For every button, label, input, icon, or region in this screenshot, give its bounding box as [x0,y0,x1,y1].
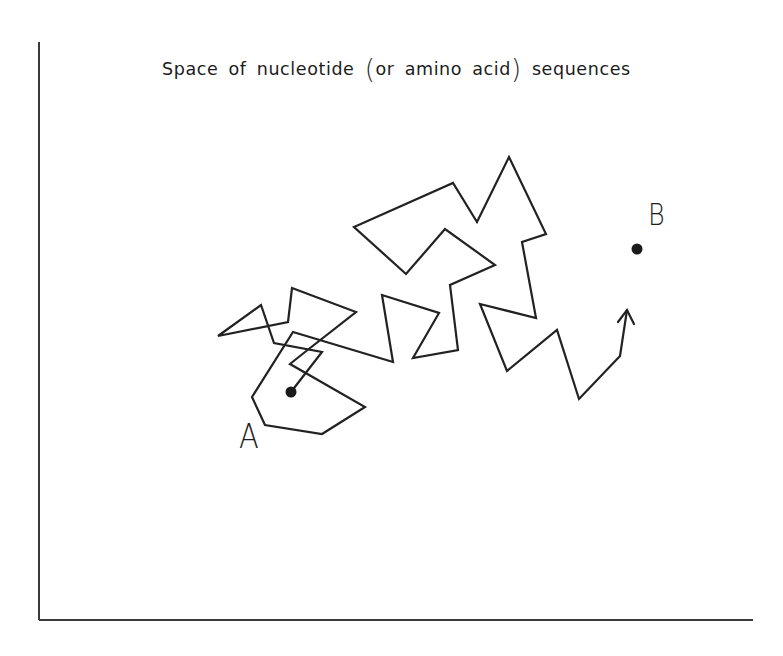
sequence-space-figure: Space of nucleotide (or amino acid) sequ… [0,0,783,656]
point-b-label: B [648,200,665,230]
random-walk-path [218,157,627,434]
point-a-label: A [239,419,259,453]
point-b-marker [632,244,643,255]
point-a-marker [286,387,297,398]
diagram-canvas [0,0,783,656]
